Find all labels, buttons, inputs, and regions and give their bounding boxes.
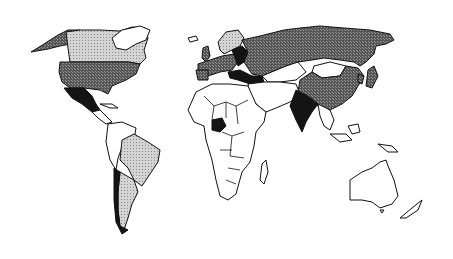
- world-map: [0, 0, 453, 259]
- south-america: [106, 122, 160, 234]
- region-korea: [358, 74, 364, 84]
- region-caribbean: [100, 104, 118, 108]
- region-africa: [188, 84, 266, 200]
- region-australia: [350, 160, 398, 208]
- region-iceland: [188, 36, 198, 42]
- region-new-zealand: [400, 200, 422, 218]
- region-japan: [366, 66, 378, 88]
- region-madagascar: [260, 160, 268, 184]
- region-uk: [202, 46, 210, 62]
- region-iberia: [196, 70, 208, 80]
- region-new-guinea: [378, 144, 398, 152]
- region-tasmania: [380, 210, 384, 213]
- region-indonesia: [330, 134, 352, 142]
- oceania: [350, 160, 422, 218]
- asia: [242, 26, 398, 152]
- north-america: [31, 26, 150, 124]
- region-borneo: [348, 124, 360, 134]
- region-central-america: [92, 110, 112, 124]
- region-mexico: [64, 88, 100, 112]
